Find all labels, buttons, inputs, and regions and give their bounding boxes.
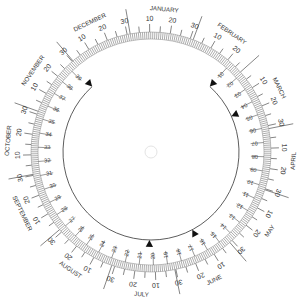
month-day-label: 20	[252, 228, 262, 239]
month-day-label: 10	[213, 31, 223, 41]
cycle-day-label: 26	[77, 225, 86, 234]
cycle-day-label: 05	[245, 114, 253, 122]
cycle-day-label: 30	[49, 182, 57, 190]
cycle-day-label: 13	[228, 213, 237, 222]
cycle-day-label: 38	[66, 83, 75, 92]
month-label-july: JULY	[134, 290, 149, 298]
month-day-label: 30	[236, 245, 247, 255]
cycle-day-label: 29	[53, 194, 61, 202]
cycle-day-label: 35	[48, 118, 56, 126]
cycle-day-label: 19	[162, 251, 169, 258]
cycle-day-label: 23	[110, 245, 118, 253]
cycle-markers	[85, 79, 239, 247]
cycle-day-label: 06	[249, 127, 256, 134]
month-day-label: 10	[152, 282, 160, 289]
month-day-label: 20	[279, 166, 287, 175]
day-tick-band	[31, 32, 271, 272]
cycle-end-marker-icon	[85, 79, 92, 87]
marker-day-04-icon	[231, 110, 239, 117]
cycle-day-label: 10	[247, 179, 255, 187]
month-day-label: 30	[46, 236, 56, 247]
cycle-day-label: 25	[87, 233, 95, 242]
month-label-october: OCTOBER	[3, 125, 12, 156]
cycle-day-label: 21	[136, 252, 143, 259]
month-day-label: 20	[42, 62, 52, 73]
cycle-day-label: 17	[187, 244, 195, 252]
month-day-label: 10	[14, 151, 21, 159]
cycle-day-label: 03	[234, 91, 243, 99]
calendar-dial[interactable]: 102030JANUARY1020FEBRUARY102030MARCH1020…	[0, 0, 302, 305]
month-day-label: 20	[270, 96, 279, 106]
cycle-day-label: 34	[45, 131, 52, 138]
month-day-label: 10	[281, 144, 288, 152]
cycle-day-label: 32	[44, 157, 51, 164]
month-day-label: 10	[146, 15, 154, 22]
month-day-label: 30	[58, 46, 69, 56]
cycle-day-label: 37	[58, 94, 66, 102]
cycle-day-label: 20	[150, 253, 156, 259]
month-day-label: 20	[168, 16, 177, 24]
pivot-icon[interactable]	[145, 146, 157, 158]
month-day-label: 20	[231, 44, 242, 54]
cycle-day-label: 24	[98, 240, 106, 248]
cycle-day-label: 11	[242, 191, 250, 199]
cycle-day-label: 31	[45, 170, 52, 177]
cycle-day-label: 08	[252, 154, 258, 160]
month-day-label: 10	[216, 261, 226, 271]
month-day-label: 10	[77, 33, 87, 43]
month-label-may: MAY	[263, 223, 276, 238]
month-day-label: 30	[16, 173, 24, 182]
marker-day-16-icon	[192, 230, 198, 238]
month-day-label: 30	[120, 17, 129, 25]
cycle-day-label: 39	[74, 73, 83, 82]
month-day-label: 10	[29, 82, 39, 92]
cycle-day-label: 18	[175, 248, 182, 256]
inner-cycle-disc[interactable]: 0102030405060708091011121314151617181920…	[38, 68, 264, 265]
month-label-june: JUNE	[205, 273, 223, 286]
month-day-label: 30	[174, 279, 183, 287]
cycle-day-label: 36	[52, 105, 60, 113]
marker-day-20-icon	[146, 240, 153, 247]
month-day-label: 10	[259, 75, 269, 85]
cycle-day-label: 07	[251, 141, 258, 148]
month-day-label: 20	[129, 280, 138, 288]
cycle-day-label: 16	[198, 238, 206, 246]
cycle-day-label: 12	[235, 202, 243, 210]
cycle-day-label: 14	[219, 222, 228, 231]
month-label-august: AUGUST	[58, 259, 83, 279]
month-label-january: JANUARY	[150, 4, 179, 14]
cycle-start-marker-icon	[210, 79, 217, 87]
calendar-wheel[interactable]: 102030JANUARY1020FEBRUARY102030MARCH1020…	[0, 0, 302, 305]
cycle-day-label: 28	[60, 205, 69, 213]
month-day-label: 20	[15, 128, 23, 137]
month-label-april: APRIL	[289, 151, 297, 170]
cycle-day-label: 01	[217, 71, 226, 80]
cycle-day-label: 22	[123, 249, 130, 256]
cycle-day-label: 33	[44, 144, 50, 150]
month-day-label: 10	[264, 209, 274, 219]
month-day-label: 20	[97, 23, 107, 32]
cycle-day-label: 04	[240, 102, 248, 110]
cycle-day-label: 09	[250, 166, 257, 173]
